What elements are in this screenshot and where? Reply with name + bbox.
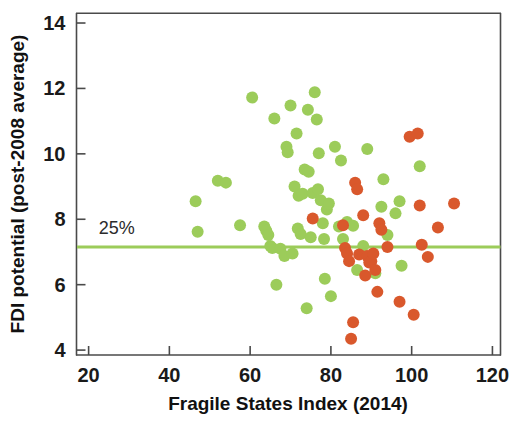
data-point-green [414,160,426,172]
data-point-green [323,198,335,210]
data-point-orange [359,270,371,282]
data-point-orange [347,316,359,328]
data-point-green [192,226,204,238]
data-point-orange [416,239,428,251]
x-tick-label-100: 100 [395,364,428,386]
x-axis-title: Fragile States Index (2014) [168,393,408,414]
data-point-green [302,104,314,116]
y-tick-label-8: 8 [54,208,65,230]
x-tick-label-20: 20 [77,364,99,386]
data-point-green [394,195,406,207]
data-point-green [312,183,324,195]
data-point-green [319,273,331,285]
y-tick-label-10: 10 [43,143,65,165]
data-point-green [335,154,347,166]
data-point-orange [422,251,434,263]
data-point-green [361,143,373,155]
data-point-orange [345,333,357,345]
y-axis-tick-labels: 468101214 [43,12,66,361]
data-point-orange [375,224,387,236]
data-point-green [318,233,330,245]
plot-frame [76,13,501,356]
data-point-green [377,173,389,185]
y-tick-label-4: 4 [54,339,66,361]
data-point-orange [367,248,379,260]
data-point-green [285,99,297,111]
data-point-orange [343,255,355,267]
x-axis-tick-labels: 20406080100120 [77,364,509,386]
y-axis-ticks [77,23,86,350]
data-point-green [305,231,317,243]
x-axis-ticks [89,346,493,355]
x-tick-label-40: 40 [158,364,180,386]
data-point-orange [408,309,420,321]
data-point-green [329,141,341,153]
data-point-green [313,147,325,159]
data-point-green [287,248,299,260]
data-point-green [268,113,280,125]
data-point-orange [369,264,381,276]
data-point-orange [412,128,424,140]
data-point-green [311,114,323,126]
data-point-orange [414,200,426,212]
data-point-orange [448,198,460,210]
data-point-green [262,229,274,241]
data-point-orange [307,213,319,225]
y-tick-label-6: 6 [54,274,65,296]
x-tick-label-120: 120 [476,364,509,386]
y-tick-label-12: 12 [43,77,65,99]
data-point-green [390,207,402,219]
data-point-green [301,302,313,314]
data-point-green [190,195,202,207]
data-point-green [220,177,232,189]
data-point-green [282,146,294,158]
chart-canvas: 468101214 20406080100120 25% Fragile Sta… [0,0,516,421]
data-point-green [309,86,321,98]
data-point-green [234,219,246,231]
y-axis-title: FDI potential (post-2008 average) [7,35,28,334]
data-point-orange [432,221,444,233]
y-tick-label-14: 14 [43,12,66,34]
data-point-green [303,166,315,178]
x-tick-label-60: 60 [239,364,261,386]
data-point-orange [381,241,393,253]
data-point-green [325,290,337,302]
x-tick-label-80: 80 [320,364,342,386]
data-point-green [291,128,303,140]
data-point-orange [337,219,349,231]
data-point-orange [371,286,383,298]
series-green-points [190,86,426,314]
data-point-orange [351,183,363,195]
data-point-orange [357,209,369,221]
data-point-green [270,279,282,291]
data-point-green [246,92,258,104]
data-point-green [396,260,408,272]
data-point-orange [394,296,406,308]
data-point-green [375,201,387,213]
scatter-chart-figure: 468101214 20406080100120 25% Fragile Sta… [0,0,516,421]
reference-line-label: 25% [99,218,135,238]
